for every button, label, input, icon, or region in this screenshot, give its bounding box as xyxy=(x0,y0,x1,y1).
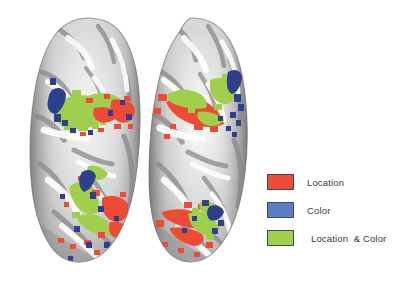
legend-swatch-location xyxy=(267,174,294,190)
legend-swatch-location-and-color xyxy=(267,230,294,246)
brain-render-left-hemisphere xyxy=(28,16,142,264)
legend-item-location-and-color: Location & Color xyxy=(267,224,400,252)
legend-label-color: Color xyxy=(307,205,330,216)
legend-swatch-color xyxy=(267,202,294,218)
right-hemisphere-surface xyxy=(148,16,250,264)
legend-item-color: Color xyxy=(267,196,400,224)
legend-label-location: Location xyxy=(307,177,344,188)
brain-activation-figure: Location Color Location & Color xyxy=(0,0,403,281)
legend-label-location-and-color: Location & Color xyxy=(311,233,386,244)
legend: Location Color Location & Color xyxy=(267,168,400,252)
legend-item-location: Location xyxy=(267,168,400,196)
brain-render-right-hemisphere xyxy=(148,16,250,264)
